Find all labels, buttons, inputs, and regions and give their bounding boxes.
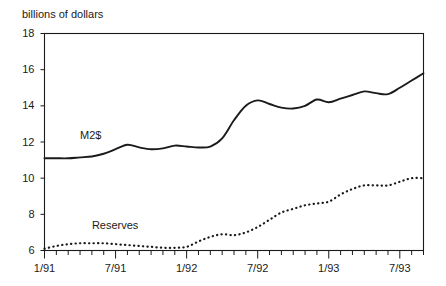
x-tick-label: 1/91 [22, 263, 68, 274]
plot-area [0, 0, 446, 286]
x-tick-label: 7/93 [377, 263, 423, 274]
series-line-1 [45, 73, 424, 158]
x-tick-label: 7/91 [93, 263, 139, 274]
series-label-reserves: Reserves [92, 220, 138, 231]
y-tick-label: 16 [13, 64, 35, 75]
y-tick-label: 18 [13, 28, 35, 39]
x-tick-label: 1/93 [306, 263, 352, 274]
series-label-m2: M2$ [80, 130, 101, 141]
y-tick-label: 6 [13, 245, 35, 256]
plot-frame [45, 34, 424, 251]
y-tick-label: 10 [13, 173, 35, 184]
y-tick-label: 14 [13, 100, 35, 111]
y-tick-label: 8 [13, 209, 35, 220]
chart-container: billions of dollars 681012141618 1/917/9… [0, 0, 446, 286]
x-tick-label: 1/92 [164, 263, 210, 274]
y-tick-label: 12 [13, 137, 35, 148]
x-tick-label: 7/92 [235, 263, 281, 274]
plot-border [45, 34, 424, 251]
series-line-2 [45, 178, 424, 249]
